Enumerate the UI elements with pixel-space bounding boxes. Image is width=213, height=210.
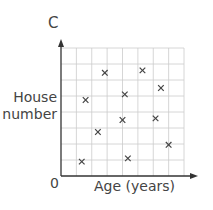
scatter-plot bbox=[0, 0, 213, 210]
grid-lines bbox=[61, 48, 184, 176]
x-axis-arrow-icon bbox=[190, 173, 198, 179]
data-point-x-marker-icon bbox=[83, 97, 89, 103]
data-markers bbox=[79, 68, 171, 165]
data-point-x-marker-icon bbox=[140, 68, 146, 74]
data-point-x-marker-icon bbox=[95, 129, 101, 135]
data-point-x-marker-icon bbox=[158, 85, 164, 91]
y-axis-arrow-icon bbox=[58, 39, 64, 47]
